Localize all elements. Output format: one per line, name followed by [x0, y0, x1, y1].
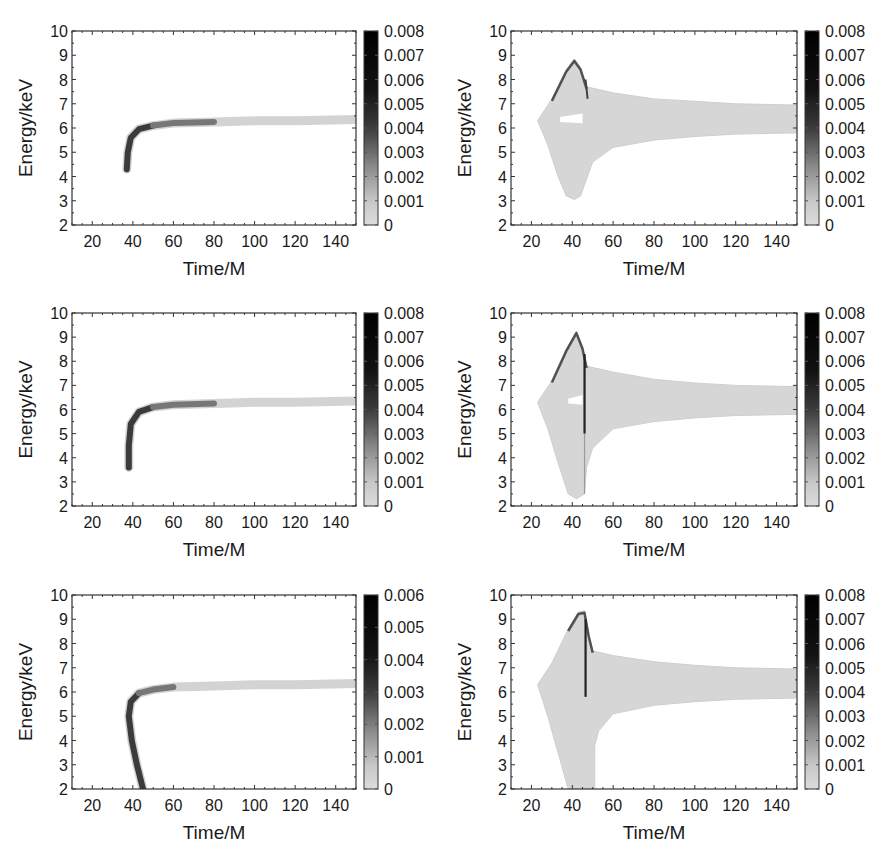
x-tick-label: 140: [322, 233, 349, 250]
heatmap-area: [538, 59, 797, 200]
colorbar-tick-label: 0.004: [384, 402, 424, 419]
figure: 204060801001201402345678910Time/MEnergy/…: [0, 0, 885, 863]
colorbar-tick-label: 0.001: [384, 474, 424, 491]
x-tick-label: 80: [645, 233, 663, 250]
y-tick-label: 2: [59, 498, 68, 515]
colorbar-tick-label: 0.003: [384, 144, 424, 161]
y-tick-label: 2: [498, 498, 507, 515]
colorbar-tick-label: 0.006: [825, 353, 865, 370]
y-tick-label: 9: [498, 329, 507, 346]
colorbar-tick-label: 0.002: [384, 716, 424, 733]
y-tick-label: 6: [59, 120, 68, 137]
x-tick-label: 40: [563, 233, 581, 250]
y-tick-label: 10: [489, 305, 507, 322]
y-tick-label: 10: [50, 587, 68, 604]
colorbar-tick-label: 0.006: [384, 353, 424, 370]
y-tick-label: 7: [59, 96, 68, 113]
x-tick-label: 120: [722, 797, 749, 814]
y-tick-label: 4: [59, 450, 68, 467]
colorbar-tick-label: 0.004: [825, 684, 865, 701]
intensity-envelope: [538, 331, 797, 499]
colorbar-tick-label: 0: [825, 781, 834, 798]
colorbar-tick-label: 0.007: [384, 329, 424, 346]
colorbar-tick-label: 0.001: [384, 749, 424, 766]
x-tick-label: 60: [604, 797, 622, 814]
colorbar-tick-label: 0.004: [825, 402, 865, 419]
colorbar-tick-label: 0.001: [825, 757, 865, 774]
colorbar-tick-label: 0.006: [384, 72, 424, 89]
colorbar-tick-label: 0.004: [384, 652, 424, 669]
y-tick-label: 6: [498, 402, 507, 419]
y-axis-label: Energy/keV: [15, 79, 36, 178]
y-tick-label: 10: [50, 23, 68, 40]
y-tick-label: 2: [59, 217, 68, 234]
y-tick-label: 4: [59, 733, 68, 750]
y-tick-label: 3: [498, 474, 507, 491]
y-tick-label: 8: [498, 636, 507, 653]
plot-frame: [72, 31, 356, 225]
x-tick-label: 120: [282, 233, 309, 250]
intensity-envelope: [538, 59, 797, 200]
panel-row2-left: 204060801001201402345678910Time/MEnergy/…: [15, 305, 424, 560]
y-tick-label: 3: [498, 193, 507, 210]
y-tick-label: 10: [489, 23, 507, 40]
colorbar-tick-label: 0.007: [825, 611, 865, 628]
y-tick-label: 8: [59, 353, 68, 370]
y-tick-label: 9: [498, 47, 507, 64]
x-tick-label: 80: [205, 514, 223, 531]
colorbar-tick-label: 0.008: [825, 305, 865, 322]
y-tick-label: 5: [59, 144, 68, 161]
y-tick-label: 5: [498, 144, 507, 161]
x-tick-label: 20: [523, 514, 541, 531]
x-tick-label: 40: [563, 514, 581, 531]
y-tick-label: 9: [498, 611, 507, 628]
y-axis-label: Energy/keV: [454, 643, 475, 742]
x-axis-label: Time/M: [623, 539, 686, 560]
y-axis-label: Energy/keV: [454, 79, 475, 178]
y-tick-label: 5: [59, 708, 68, 725]
colorbar-tick-label: 0.007: [825, 47, 865, 64]
y-tick-label: 2: [59, 781, 68, 798]
colorbar-tick-label: 0.006: [825, 72, 865, 89]
colorbar-tick-label: 0.008: [825, 587, 865, 604]
y-tick-label: 8: [498, 72, 507, 89]
colorbar-tick-label: 0.005: [825, 377, 865, 394]
heatmap-area: [129, 401, 356, 467]
plot-frame: [72, 595, 356, 789]
y-tick-label: 5: [59, 426, 68, 443]
x-axis-label: Time/M: [183, 539, 246, 560]
y-tick-label: 3: [59, 757, 68, 774]
colorbar-tick-label: 0.002: [825, 733, 865, 750]
colorbar-tick-label: 0.002: [825, 169, 865, 186]
y-tick-label: 7: [59, 377, 68, 394]
y-tick-label: 6: [498, 684, 507, 701]
y-axis-label: Energy/keV: [454, 360, 475, 459]
intensity-envelope: [538, 611, 797, 789]
track-mid: [153, 122, 214, 126]
x-tick-label: 120: [722, 233, 749, 250]
x-tick-label: 120: [722, 514, 749, 531]
y-tick-label: 3: [59, 193, 68, 210]
y-tick-label: 4: [498, 733, 507, 750]
x-tick-label: 100: [241, 233, 268, 250]
x-tick-label: 100: [682, 233, 709, 250]
x-tick-label: 20: [83, 514, 101, 531]
x-axis-label: Time/M: [183, 822, 246, 843]
x-tick-label: 100: [241, 797, 268, 814]
panel-row1-right: 204060801001201402345678910Time/MEnergy/…: [454, 23, 865, 279]
colorbar: 00.0010.0020.0030.0040.0050.0060.0070.00…: [805, 23, 865, 234]
colorbar-tick-label: 0.003: [825, 426, 865, 443]
y-tick-label: 6: [498, 120, 507, 137]
colorbar-tick-label: 0.007: [825, 329, 865, 346]
x-tick-label: 20: [523, 797, 541, 814]
y-tick-label: 6: [59, 684, 68, 701]
colorbar-tick-label: 0.007: [384, 47, 424, 64]
y-tick-label: 10: [489, 587, 507, 604]
x-tick-label: 60: [165, 233, 183, 250]
y-tick-label: 4: [59, 169, 68, 186]
y-tick-label: 8: [59, 636, 68, 653]
colorbar-tick-label: 0.005: [384, 619, 424, 636]
colorbar-tick-label: 0.005: [384, 96, 424, 113]
heatmap-area: [538, 331, 797, 499]
y-tick-label: 2: [498, 217, 507, 234]
